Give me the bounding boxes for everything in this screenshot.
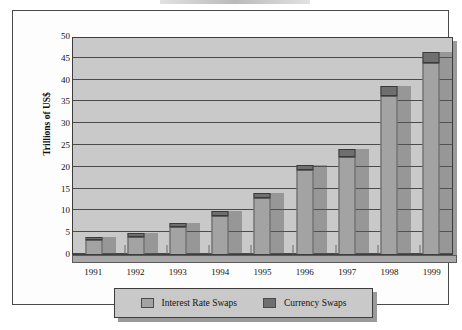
- x-tick-label-1997: 1997: [326, 266, 368, 280]
- y-tick-label-25: 25: [48, 141, 70, 150]
- bar-segment-interest-rate-swaps-1993[interactable]: [170, 227, 187, 254]
- y-tick-label-0: 0: [48, 250, 70, 259]
- bar-series-group: [73, 38, 452, 254]
- cropped-title-artifact: [160, 0, 310, 4]
- x-tick-label-1995: 1995: [241, 266, 283, 280]
- y-tick-label-15: 15: [48, 185, 70, 194]
- bar-stack-1997[interactable]: [338, 149, 355, 254]
- bar-segment-interest-rate-swaps-1995[interactable]: [254, 198, 271, 254]
- y-tick-label-45: 45: [48, 54, 70, 63]
- y-tick-label-20: 20: [48, 163, 70, 172]
- y-tick-label-40: 40: [48, 76, 70, 85]
- bar-segment-currency-swaps-1997[interactable]: [338, 149, 355, 157]
- x-tick-label-1994: 1994: [199, 266, 241, 280]
- x-tick-label-1999: 1999: [411, 266, 453, 280]
- bar-group-1999[interactable]: [410, 38, 452, 254]
- bar-group-1997[interactable]: [326, 38, 368, 254]
- bar-group-1994[interactable]: [199, 38, 241, 254]
- bar-segment-interest-rate-swaps-1996[interactable]: [296, 170, 313, 254]
- bar-segment-interest-rate-swaps-1994[interactable]: [212, 216, 229, 254]
- bar-stack-1995[interactable]: [254, 193, 271, 254]
- bar-stack-1996[interactable]: [296, 165, 313, 254]
- plot-area: [72, 37, 453, 255]
- bar-group-1992[interactable]: [115, 38, 157, 254]
- y-tick-label-50: 50: [48, 32, 70, 41]
- legend-swatch-icon: [263, 298, 276, 308]
- bar-group-1995[interactable]: [241, 38, 283, 254]
- legend-item-interest-rate-swaps[interactable]: Interest Rate Swaps: [141, 298, 237, 308]
- bar-segment-interest-rate-swaps-1992[interactable]: [128, 237, 145, 254]
- bar-group-1991[interactable]: [73, 38, 115, 254]
- bar-segment-interest-rate-swaps-1997[interactable]: [338, 157, 355, 254]
- y-tick-label-35: 35: [48, 97, 70, 106]
- bar-segment-interest-rate-swaps-1991[interactable]: [86, 240, 103, 254]
- x-tick-label-1993: 1993: [157, 266, 199, 280]
- bar-stack-1993[interactable]: [170, 223, 187, 254]
- x-axis-baseline: [72, 255, 457, 263]
- x-tick-label-1991: 1991: [72, 266, 114, 280]
- y-tick-label-5: 5: [48, 228, 70, 237]
- bar-stack-1991[interactable]: [86, 237, 103, 254]
- bar-segment-currency-swaps-1999[interactable]: [422, 52, 439, 62]
- bar-stack-1999[interactable]: [422, 52, 439, 254]
- bar-stack-1998[interactable]: [380, 86, 397, 254]
- bar-segment-currency-swaps-1998[interactable]: [380, 86, 397, 96]
- x-tick-label-1996: 1996: [284, 266, 326, 280]
- legend-label: Interest Rate Swaps: [162, 298, 237, 308]
- bar-group-1996[interactable]: [284, 38, 326, 254]
- bar-stack-1994[interactable]: [212, 211, 229, 254]
- legend-swatch-icon: [141, 298, 154, 308]
- bar-segment-interest-rate-swaps-1998[interactable]: [380, 96, 397, 254]
- legend-label: Currency Swaps: [284, 298, 347, 308]
- bar-stack-1992[interactable]: [128, 233, 145, 254]
- legend-item-currency-swaps[interactable]: Currency Swaps: [263, 298, 347, 308]
- bar-group-1998[interactable]: [368, 38, 410, 254]
- x-tick-label-1998: 1998: [368, 266, 410, 280]
- chart-frame: Trillions of US$ 05101520253035404550 19…: [12, 10, 449, 305]
- y-tick-label-10: 10: [48, 206, 70, 215]
- x-axis-tick-labels: 199119921993199419951996199719981999: [72, 266, 453, 280]
- chart-legend: Interest Rate SwapsCurrency Swaps: [114, 288, 373, 318]
- x-tick-label-1992: 1992: [114, 266, 156, 280]
- bar-segment-interest-rate-swaps-1999[interactable]: [422, 63, 439, 254]
- bar-group-1993[interactable]: [157, 38, 199, 254]
- y-axis-tick-labels: 05101520253035404550: [46, 37, 70, 255]
- y-tick-label-30: 30: [48, 119, 70, 128]
